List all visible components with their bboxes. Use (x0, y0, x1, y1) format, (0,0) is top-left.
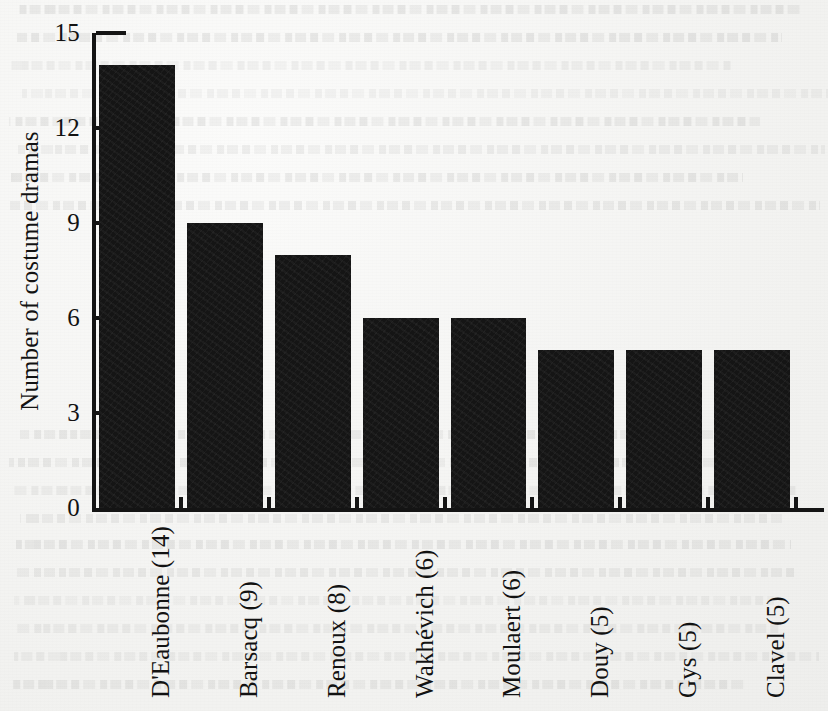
x-axis-tick-label: Barsacq (9) (235, 581, 263, 698)
x-axis-tick-label: D'Eaubonne (14) (147, 526, 175, 698)
bar (714, 350, 790, 508)
x-axis-tick (794, 497, 798, 508)
x-axis-tick-label: Clavel (5) (762, 596, 790, 698)
x-axis-tick-label: Wakhévich (6) (411, 549, 439, 698)
bar (626, 350, 702, 508)
x-axis-tick (355, 497, 359, 508)
bar (275, 255, 351, 508)
x-axis-tick (706, 497, 710, 508)
bar (538, 350, 614, 508)
y-axis-line (92, 33, 96, 512)
x-axis-tick (92, 497, 96, 508)
x-axis-tick-label: Gys (5) (674, 622, 702, 698)
y-axis-tick-label: 0 (14, 495, 80, 520)
bar (451, 318, 527, 508)
x-axis-tick-label: Renoux (8) (323, 584, 351, 698)
bar (99, 65, 175, 508)
bar (187, 223, 263, 508)
x-axis-tick (530, 497, 534, 508)
x-axis-tick (443, 497, 447, 508)
x-axis-line (92, 508, 824, 512)
x-axis-tick (179, 497, 183, 508)
y-axis-tick-label: 15 (14, 20, 80, 45)
y-axis-tick (96, 31, 126, 35)
y-axis-title: Number of costume dramas (16, 131, 44, 410)
bar (363, 318, 439, 508)
x-axis-tick-label: Moulaert (6) (498, 570, 526, 698)
x-axis-tick (267, 497, 271, 508)
bar-chart: 03691215 Number of costume dramas D'Eaub… (0, 0, 828, 711)
x-axis-tick (618, 497, 622, 508)
x-axis-tick-label: Douy (5) (586, 606, 614, 698)
